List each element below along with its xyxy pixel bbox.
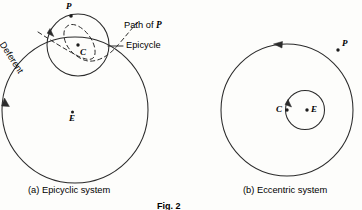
- figure-svg: [0, 0, 362, 210]
- label-epicycle: Epicycle: [126, 40, 161, 50]
- eccentric-point-p-marker: [336, 48, 339, 51]
- caption-panel-a: (a) Epicyclic system: [28, 185, 110, 195]
- figure-caption: Fig. 2: [157, 201, 181, 210]
- orbit-direction-arrow-icon: [274, 42, 283, 49]
- label-point-c-eccentric: C: [276, 104, 282, 114]
- label-path-of-p: Path of P: [124, 20, 162, 30]
- label-path-of-p-variable: P: [156, 20, 162, 30]
- label-path-of-p-text: Path of: [124, 20, 156, 30]
- caption-panel-b: (b) Eccentric system: [243, 185, 327, 195]
- label-point-p-eccentric: P: [342, 38, 348, 48]
- label-point-c-epicyclic: C: [80, 47, 86, 57]
- label-point-e-eccentric: E: [311, 104, 317, 114]
- small-deferent-circle: [286, 91, 325, 130]
- point-p-marker: [69, 14, 73, 18]
- label-point-e-epicyclic: E: [69, 113, 75, 123]
- deferent-circle: [2, 37, 148, 183]
- panel-eccentric: [221, 42, 353, 177]
- label-point-p-epicyclic: P: [66, 1, 72, 11]
- figure-container: P C E Path of P Epicycle Deferent P C E …: [0, 0, 362, 210]
- eccentric-point-c-marker: [285, 108, 288, 111]
- eccentric-point-e-marker: [305, 108, 308, 111]
